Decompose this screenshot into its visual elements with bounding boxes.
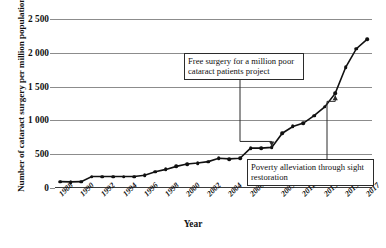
figure: Number of cataract surgery per million p… [0,0,386,248]
annotation-leader-line [240,76,272,141]
annotation-text: Poverty alleviation through sight restor… [251,162,364,182]
annotation-leader-line [327,101,335,159]
annotation-leader-lines [240,76,338,159]
x-axis-title: Year [0,219,386,229]
chart-vector-overlay [0,0,386,248]
annotation-box-free-surgery: Free surgery for a million poor cataract… [184,53,304,80]
annotation-text: Free surgery for a million poor cataract… [188,56,294,76]
annotation-box-poverty-alleviation: Poverty alleviation through sight restor… [247,159,374,186]
